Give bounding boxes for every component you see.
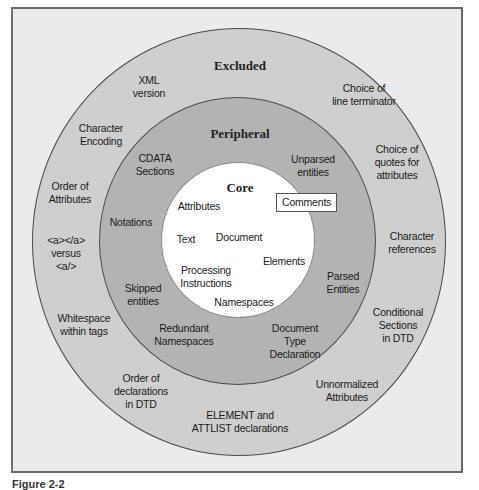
- label-cdata-sections: CDATASections: [136, 152, 175, 178]
- label-line-terminator: Choice ofline terminator: [332, 82, 396, 108]
- excluded-title: Excluded: [214, 58, 266, 74]
- label-comments: Comments: [276, 193, 337, 212]
- label-unnormalized-attributes: UnnormalizedAttributes: [316, 378, 378, 404]
- label-quotes-for-attributes: Choice ofquotes forattributes: [375, 143, 420, 182]
- label-parsed-entities: ParsedEntities: [327, 270, 360, 296]
- peripheral-title: Peripheral: [210, 126, 269, 142]
- core-title: Core: [226, 180, 253, 196]
- label-elements: Elements: [263, 255, 305, 268]
- label-text: Text: [177, 233, 195, 246]
- label-processing-instructions: ProcessingInstructions: [180, 264, 231, 290]
- label-namespaces: Namespaces: [214, 296, 273, 309]
- label-document: Document: [216, 231, 262, 244]
- figure-caption: Figure 2-2: [12, 478, 65, 490]
- label-order-of-declarations: Order ofdeclarationsin DTD: [114, 372, 168, 411]
- label-order-of-attributes: Order ofAttributes: [49, 180, 91, 206]
- label-unparsed-entities: Unparsedentities: [291, 153, 335, 179]
- label-attributes: Attributes: [178, 200, 220, 213]
- label-character-encoding: CharacterEncoding: [79, 122, 123, 148]
- label-notations: Notations: [110, 216, 153, 229]
- label-xml-version: XMLversion: [133, 74, 165, 100]
- label-conditional-sections: ConditionalSectionsin DTD: [373, 306, 423, 345]
- label-document-type-declaration: DocumentTypeDeclaration: [270, 322, 321, 361]
- label-character-references: Characterreferences: [388, 230, 436, 256]
- label-element-attlist: ELEMENT andATTLIST declarations: [192, 409, 289, 435]
- label-empty-element-syntax: <a></a>versus<a/>: [47, 234, 85, 273]
- label-redundant-namespaces: RedundantNamespaces: [154, 322, 213, 348]
- label-whitespace-within-tags: Whitespacewithin tags: [58, 312, 111, 338]
- label-skipped-entities: Skippedentities: [125, 282, 162, 308]
